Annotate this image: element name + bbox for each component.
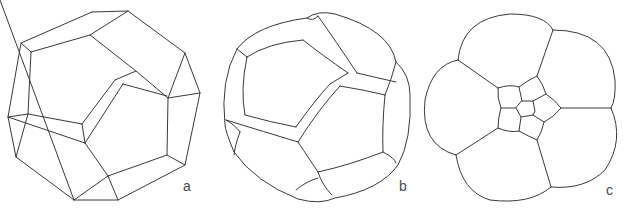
- panel-b-drawing: [224, 13, 410, 202]
- figure-canvas: [0, 0, 623, 209]
- panel-b-label: b: [399, 179, 407, 193]
- panel-a-drawing: [0, 0, 200, 200]
- panel-c-drawing: [424, 14, 616, 201]
- panel-c-label: c: [606, 183, 613, 197]
- panel-a-label: a: [183, 179, 191, 193]
